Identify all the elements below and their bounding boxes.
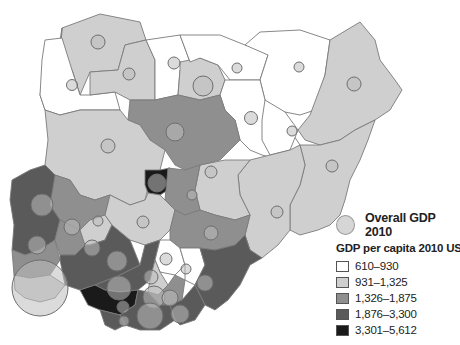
legend-bubble-label: Overall GDP 2010: [365, 211, 460, 239]
swatch-icon: [336, 325, 349, 336]
bubble-akwa-ibom: [171, 305, 189, 323]
bubble-lagos: [12, 260, 68, 316]
bubble-kaduna: [166, 123, 184, 141]
bubble-size-icon: [336, 215, 355, 235]
bubble-fct: [148, 174, 166, 192]
bubble-kano: [193, 76, 213, 96]
map-legend: Overall GDP 2010 GDP per capita 2010 US$…: [336, 214, 460, 338]
legend-item: 1,326–1,875: [336, 290, 460, 306]
bubble-gombe: [287, 126, 297, 136]
bubble-abia: [162, 290, 178, 306]
bubble-kwara: [64, 219, 80, 235]
bubble-cross-river: [197, 275, 213, 291]
bubble-jigawa: [232, 63, 242, 73]
swatch-icon: [336, 309, 349, 320]
swatch-icon: [336, 261, 349, 272]
legend-item: 931–1,325: [336, 274, 460, 290]
swatch-icon: [336, 277, 349, 288]
bubble-oyo: [31, 194, 53, 216]
bubble-katsina: [168, 57, 180, 69]
bubble-rivers: [137, 303, 163, 329]
bubble-anambra: [144, 270, 158, 284]
bubble-kebbi: [67, 80, 78, 91]
bubble-ondo: [107, 251, 127, 271]
bubble-yobe: [294, 62, 304, 72]
bubble-enugu: [160, 253, 172, 265]
bubble-niger: [101, 139, 115, 153]
bubble-kogi: [137, 216, 149, 228]
bubble-borno: [347, 77, 361, 91]
bubble-plateau: [205, 166, 217, 178]
legend-item: 3,301–5,612: [336, 322, 460, 338]
bubble-ekiti: [93, 216, 103, 226]
swatch-icon: [336, 293, 349, 304]
bubble-taraba: [271, 206, 283, 218]
legend-item: 610–930: [336, 258, 460, 274]
bubble-osun: [84, 240, 100, 256]
bubble-ogun: [28, 236, 46, 254]
bubble-zamfara: [123, 68, 135, 80]
bubble-sokoto: [91, 35, 105, 49]
bubble-bauchi: [245, 112, 258, 125]
bubble-benue: [204, 226, 218, 240]
bubble-ebonyi: [181, 264, 191, 274]
bubble-edo: [107, 276, 131, 300]
bubble-delta: [117, 301, 129, 313]
bubble-adamawa: [326, 160, 338, 172]
bubble-nasarawa: [187, 190, 197, 200]
bubble-bayelsa: [119, 316, 129, 326]
legend-item: 1,876–3,300: [336, 306, 460, 322]
legend-bubble-row: Overall GDP 2010: [336, 214, 460, 236]
legend-title: GDP per capita 2010 US$: [336, 242, 460, 254]
